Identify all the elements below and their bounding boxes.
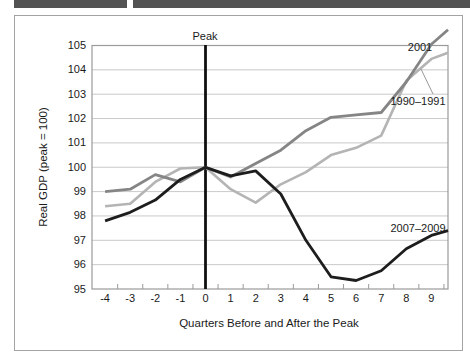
x-tick-label: 4 bbox=[303, 292, 309, 304]
x-tick-label: 3 bbox=[278, 292, 284, 304]
x-tick-label: 6 bbox=[353, 292, 359, 304]
series-label-2007-2009: 2007–2009 bbox=[390, 223, 445, 234]
y-tick-label: 103 bbox=[68, 88, 86, 100]
y-tick-label: 96 bbox=[74, 258, 86, 270]
y-axis-title: Real GDP (peak = 100) bbox=[38, 107, 50, 227]
x-axis-title: Quarters Before and After the Peak bbox=[179, 318, 359, 330]
figure: -4-3-2-101234567899596979899100101102103… bbox=[0, 0, 470, 361]
x-tick-label: 7 bbox=[378, 292, 384, 304]
x-tick-label: 0 bbox=[202, 292, 208, 304]
x-tick-label: 5 bbox=[328, 292, 334, 304]
y-tick-label: 102 bbox=[68, 112, 86, 124]
x-tick-label: 8 bbox=[403, 292, 409, 304]
x-tick-label: -1 bbox=[176, 292, 186, 304]
x-tick-label: 9 bbox=[428, 292, 434, 304]
line-chart-canvas: -4-3-2-101234567899596979899100101102103… bbox=[0, 0, 470, 361]
x-tick-label: -3 bbox=[125, 292, 135, 304]
y-tick-label: 98 bbox=[74, 209, 86, 221]
x-tick-label: 1 bbox=[228, 292, 234, 304]
series-label-1990-1991: 1990–1991 bbox=[390, 96, 445, 107]
y-tick-label: 105 bbox=[68, 39, 86, 51]
y-tick-label: 100 bbox=[68, 161, 86, 173]
x-tick-label: 2 bbox=[253, 292, 259, 304]
x-tick-label: -4 bbox=[100, 292, 110, 304]
peak-annotation: Peak bbox=[192, 31, 217, 42]
series-line-1990-1991 bbox=[105, 53, 448, 206]
series-label-2001: 2001 bbox=[408, 42, 432, 53]
y-tick-label: 104 bbox=[68, 63, 86, 75]
y-tick-label: 101 bbox=[68, 136, 86, 148]
x-tick-label: -2 bbox=[150, 292, 160, 304]
label-leader-line bbox=[421, 69, 433, 94]
y-tick-label: 99 bbox=[74, 185, 86, 197]
y-tick-label: 95 bbox=[74, 283, 86, 295]
y-tick-label: 97 bbox=[74, 234, 86, 246]
